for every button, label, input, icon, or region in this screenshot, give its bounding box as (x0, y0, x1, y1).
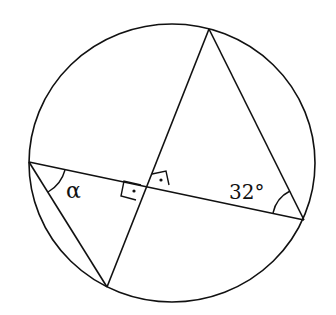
alpha-label: α (66, 178, 81, 203)
right-angle-marker-upper (152, 171, 169, 185)
circle (29, 24, 315, 302)
geometry-diagram: α 32° (0, 0, 336, 315)
chord-top-bottom (107, 29, 209, 287)
angle-arc-alpha (48, 170, 65, 192)
angle-arc-32 (273, 191, 290, 213)
angle-32-label: 32° (229, 180, 264, 204)
